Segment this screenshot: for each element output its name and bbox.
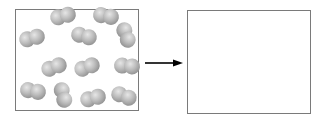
diatomic-molecule xyxy=(113,57,140,75)
atom-sphere-icon xyxy=(29,83,48,102)
reaction-arrow-icon xyxy=(145,59,183,67)
atom-sphere-icon xyxy=(123,58,140,75)
product-box xyxy=(187,10,311,114)
